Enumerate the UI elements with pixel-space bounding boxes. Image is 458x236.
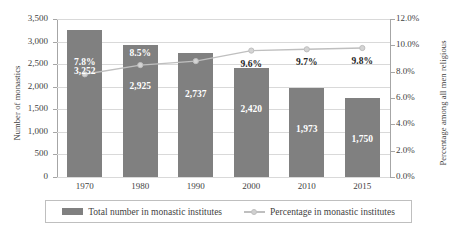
- left-tick-label: 3,000: [4, 37, 48, 46]
- left-tick-label: 500: [4, 149, 48, 158]
- right-tick-mark: [391, 98, 395, 99]
- right-tick-label: 0.0%: [396, 172, 442, 181]
- x-tick-label: 1970: [57, 181, 113, 191]
- left-tick-label: 3,500: [4, 14, 48, 23]
- line-data-point: [138, 63, 143, 68]
- percentage-label: 8.5%: [110, 48, 170, 58]
- x-tick-label: 2015: [335, 181, 391, 191]
- right-tick-label: 8.0%: [396, 67, 442, 76]
- bar-swatch-icon: [62, 208, 83, 215]
- legend-label-bar: Total number in monastic institutes: [88, 207, 222, 217]
- right-tick-mark: [391, 177, 395, 178]
- x-tick-label: 1990: [168, 181, 224, 191]
- line-data-point: [249, 48, 254, 53]
- bar-value-label: 3,252: [55, 66, 115, 76]
- legend-entry-bar[interactable]: Total number in monastic institutes: [62, 207, 222, 217]
- x-tick-label: 2000: [224, 181, 280, 191]
- right-tick-mark: [391, 45, 395, 46]
- percentage-label: 8.8%: [166, 44, 226, 54]
- bar-value-label: 1,750: [332, 134, 392, 144]
- line-data-point: [193, 59, 198, 64]
- percentage-label: 7.8%: [55, 57, 115, 67]
- chart-container: Number of monastics Percentage among all…: [0, 0, 458, 236]
- left-tick-label: 1,500: [4, 104, 48, 113]
- left-tick-label: 0: [4, 172, 48, 181]
- x-tick-label: 2010: [279, 181, 335, 191]
- right-tick-label: 10.0%: [396, 40, 442, 49]
- line-data-point: [304, 47, 309, 52]
- bar-value-label: 2,737: [166, 89, 226, 99]
- bar-value-label: 2,420: [221, 104, 281, 114]
- legend-entry-line[interactable]: Percentage in monastic institutes: [244, 207, 395, 217]
- right-tick-mark: [391, 124, 395, 125]
- right-tick-mark: [391, 151, 395, 152]
- right-tick-label: 12.0%: [396, 14, 442, 23]
- gridline: [57, 177, 390, 178]
- left-tick-label: 2,000: [4, 82, 48, 91]
- percentage-label: 9.6%: [221, 59, 281, 69]
- right-tick-label: 2.0%: [396, 146, 442, 155]
- bar-value-label: 1,973: [277, 124, 337, 134]
- percentage-label: 9.8%: [332, 56, 392, 66]
- left-tick-label: 2,500: [4, 59, 48, 68]
- right-tick-mark: [391, 19, 395, 20]
- bar-value-label: 2,925: [110, 81, 170, 91]
- left-tick-label: 1,000: [4, 127, 48, 136]
- percentage-label: 9.7%: [277, 57, 337, 67]
- left-tick-mark: [53, 177, 57, 178]
- line-data-point: [360, 45, 365, 50]
- right-tick-label: 6.0%: [396, 93, 442, 102]
- line-marker-icon: [244, 208, 265, 215]
- right-tick-label: 4.0%: [396, 119, 442, 128]
- right-tick-mark: [391, 72, 395, 73]
- x-tick-label: 1980: [113, 181, 169, 191]
- chart-legend: Total number in monastic institutes Perc…: [45, 200, 412, 223]
- legend-label-line: Percentage in monastic institutes: [270, 207, 395, 217]
